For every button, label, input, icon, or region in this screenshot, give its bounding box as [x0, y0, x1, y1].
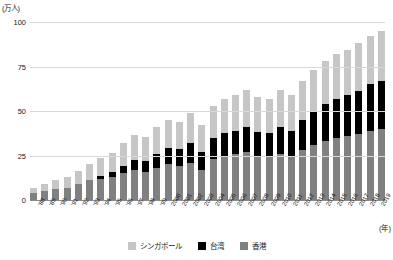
- x-axis-tick-label: '95: [114, 197, 123, 207]
- gridline: [30, 111, 385, 112]
- bar-segment-singapore: [97, 158, 104, 176]
- y-axis-tick-label: 25: [18, 151, 26, 160]
- y-axis-tick-label: 75: [18, 62, 26, 71]
- bar-segment-hongkong: [86, 180, 93, 200]
- bar-segment-taiwan: [232, 131, 239, 154]
- bar-segment-hongkong: [153, 168, 160, 200]
- bar-segment-singapore: [288, 95, 295, 131]
- bar-segment-hongkong: [367, 131, 374, 200]
- bar-segment-singapore: [243, 90, 250, 127]
- bar-segment-singapore: [344, 50, 351, 95]
- legend-swatch-icon: [128, 242, 136, 250]
- plot-area: 0255075100: [30, 22, 385, 200]
- legend-swatch-icon: [198, 242, 206, 250]
- bar-segment-singapore: [153, 127, 160, 154]
- legend-item[interactable]: 台湾: [198, 240, 224, 251]
- bar-segment-singapore: [221, 99, 228, 133]
- bar-segment-taiwan: [120, 166, 127, 173]
- x-axis-unit-label: (年): [379, 222, 391, 233]
- bar-segment-singapore: [322, 61, 329, 104]
- y-axis-unit-label: (万人): [2, 2, 20, 13]
- bar-segment-taiwan: [187, 143, 194, 163]
- bar-segment-taiwan: [288, 131, 295, 157]
- bar-segment-taiwan: [176, 149, 183, 166]
- bar-segment-singapore: [333, 54, 340, 99]
- bar-segment-taiwan: [254, 132, 261, 155]
- legend-label: 香港: [252, 240, 266, 251]
- y-axis-tick-label: 50: [18, 107, 26, 116]
- bar-segment-singapore: [310, 70, 317, 111]
- bar-segment-singapore: [64, 177, 71, 188]
- bar-segment-taiwan: [243, 127, 250, 152]
- bar-segment-singapore: [142, 137, 149, 161]
- bar-segment-taiwan: [266, 133, 273, 157]
- bar-segment-singapore: [165, 120, 172, 148]
- bar-segment-taiwan: [310, 111, 317, 145]
- legend-label: 台湾: [210, 240, 224, 251]
- bar-segment-hongkong: [131, 170, 138, 200]
- bar-segment-singapore: [266, 99, 273, 134]
- bar-segment-hongkong: [333, 138, 340, 200]
- x-axis-tick-label: '98: [147, 197, 156, 207]
- bar-segment-singapore: [299, 81, 306, 120]
- stacked-bar-chart: (万人) 0255075100 '88'89'90'91'92'93'94'95…: [0, 0, 393, 260]
- x-axis-tick-label: '96: [125, 197, 134, 207]
- bar-segment-taiwan: [299, 120, 306, 150]
- bar-segment-hongkong: [109, 177, 116, 200]
- bar-segment-hongkong: [322, 141, 329, 200]
- gridline: [30, 67, 385, 68]
- bar-segment-hongkong: [378, 129, 385, 200]
- chart-legend: シンガポール台湾香港: [0, 240, 393, 251]
- bar-segment-hongkong: [165, 164, 172, 200]
- bar-segment-taiwan: [333, 99, 340, 138]
- bar-segment-singapore: [41, 184, 48, 191]
- bar-segment-hongkong: [120, 173, 127, 200]
- bar-segment-hongkong: [30, 193, 37, 200]
- bar-segment-singapore: [52, 180, 59, 189]
- bar-segment-taiwan: [131, 160, 138, 170]
- legend-item[interactable]: シンガポール: [128, 240, 182, 251]
- bar-segment-hongkong: [355, 134, 362, 200]
- y-axis-tick-label: 100: [13, 18, 26, 27]
- bar-segment-singapore: [198, 125, 205, 152]
- bar-segment-hongkong: [299, 150, 306, 200]
- bar-segment-singapore: [378, 31, 385, 81]
- bar-segment-hongkong: [344, 136, 351, 200]
- bar-segment-taiwan: [355, 91, 362, 135]
- bar-segment-taiwan: [378, 81, 385, 129]
- bar-segment-singapore: [86, 164, 93, 180]
- gridline: [30, 22, 385, 23]
- legend-item[interactable]: 香港: [240, 240, 266, 251]
- bar-segment-hongkong: [310, 145, 317, 200]
- bar-segment-taiwan: [221, 133, 228, 155]
- bar-segment-taiwan: [322, 104, 329, 141]
- x-axis-labels: '88'89'90'91'92'93'94'95'96'97'98'992000…: [30, 202, 385, 236]
- legend-label: シンガポール: [140, 240, 182, 251]
- bar-segment-singapore: [187, 113, 194, 143]
- bar-segment-taiwan: [277, 127, 284, 154]
- y-axis-tick-label: 0: [22, 196, 26, 205]
- bar-segment-singapore: [176, 122, 183, 150]
- bar-segment-singapore: [232, 95, 239, 131]
- bar-segment-singapore: [254, 97, 261, 133]
- legend-swatch-icon: [240, 242, 248, 250]
- gridline: [30, 156, 385, 157]
- bar-segment-hongkong: [97, 179, 104, 200]
- bar-segment-taiwan: [142, 161, 149, 172]
- bar-segment-taiwan: [344, 95, 351, 136]
- bar-segment-singapore: [75, 171, 82, 184]
- bar-segment-hongkong: [142, 172, 149, 200]
- bar-segment-taiwan: [367, 84, 374, 130]
- bar-segment-singapore: [367, 36, 374, 84]
- bar-segment-singapore: [277, 90, 284, 127]
- x-axis-tick-label: '97: [136, 197, 145, 207]
